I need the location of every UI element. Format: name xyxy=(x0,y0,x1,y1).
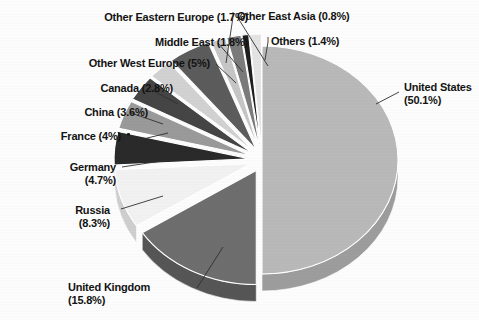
leader-line-11 xyxy=(376,92,399,104)
france-dot-artifact-icon xyxy=(127,133,130,136)
slice-label-united-states: United States (50.1%) xyxy=(404,81,479,106)
pie-slices-group xyxy=(114,34,398,302)
slice-label-others: Others (1.4%) xyxy=(271,35,421,48)
pie-chart-figure: Other Eastern Europe (1.7%) Middle East … xyxy=(0,0,479,320)
slice-label-middle-east: Middle East (1.8%) xyxy=(52,36,248,49)
slice-label-france: France (4%) xyxy=(2,130,121,143)
slice-label-other-west-europe: Other West Europe (5%) xyxy=(6,57,210,70)
slice-label-other-east-asia: Other East Asia (0.8%) xyxy=(237,10,417,23)
slice-label-other-eastern-europe: Other Eastern Europe (1.7%) xyxy=(32,11,248,24)
slice-label-canada: Canada (2.8%) xyxy=(8,82,173,95)
slice-label-china: China (3.6%) xyxy=(8,106,148,119)
slice-label-russia: Russia (8.3%) xyxy=(6,204,110,229)
pie-slice-united-states[interactable] xyxy=(262,46,398,274)
slice-label-united-kingdom: United Kingdom (15.8%) xyxy=(68,281,218,306)
slice-label-germany: Germany (4.7%) xyxy=(6,161,116,186)
